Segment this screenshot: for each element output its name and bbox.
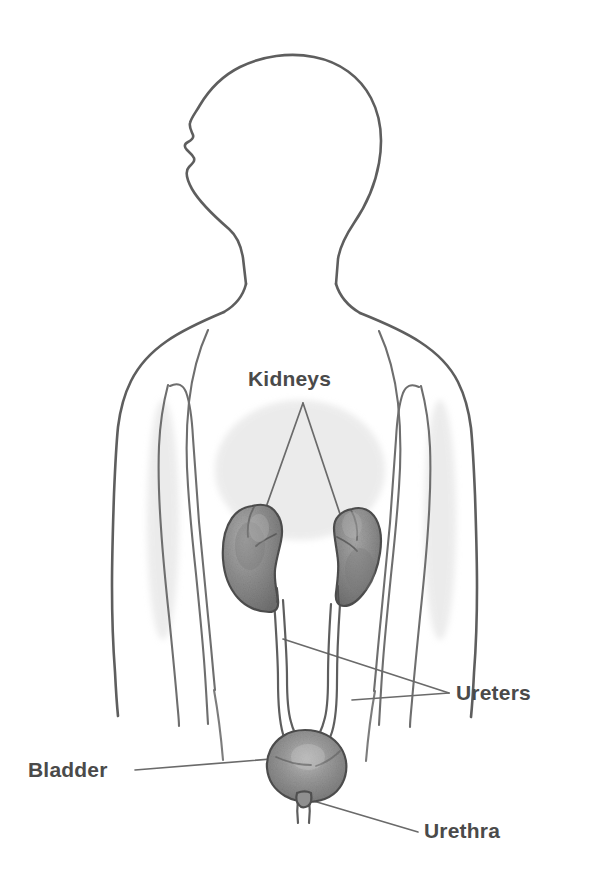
bladder-highlight — [291, 744, 325, 770]
right-hip-line — [366, 691, 375, 761]
right-kidney-pelvis — [338, 586, 339, 603]
anatomy-illustration: Kidneys Ureters Bladder Urethra — [0, 0, 597, 886]
leader-line-ureters-lower — [352, 693, 449, 700]
leader-line-urethra — [300, 797, 418, 832]
label-kidneys: Kidneys — [248, 367, 331, 390]
left-ureter-inner-wall — [283, 600, 300, 740]
left-kidney-highlight — [249, 514, 269, 542]
left-hip-line — [214, 690, 223, 760]
urethra-neck — [296, 792, 311, 808]
leader-line-ureters-upper — [283, 639, 449, 693]
left-kidney — [223, 505, 282, 612]
bladder-group — [267, 730, 346, 823]
head-profile — [185, 55, 381, 284]
urinary-system-figure: Kidneys Ureters Bladder Urethra — [0, 0, 597, 886]
label-bladder: Bladder — [28, 758, 108, 781]
right-kidney-highlight — [342, 512, 362, 538]
right-ureter-inner-wall — [315, 604, 331, 739]
neck-right-line — [336, 284, 360, 313]
left-torso-side — [187, 330, 208, 724]
label-urethra: Urethra — [424, 819, 500, 842]
right-kidney-shadow — [345, 548, 375, 592]
left-torso-shade — [147, 400, 179, 640]
right-kidney — [334, 508, 381, 606]
label-ureters: Ureters — [456, 681, 531, 704]
neck-left-line — [224, 284, 246, 312]
left-kidney-pelvis — [277, 588, 278, 602]
